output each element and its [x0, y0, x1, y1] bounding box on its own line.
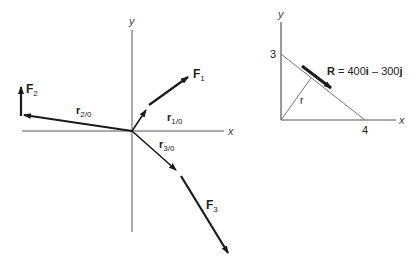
r3-label: r3/0	[159, 138, 175, 153]
right-x-axis-label: x	[398, 114, 405, 126]
left-diagram: x y F1 F2 F3 r1/0 r2/0 r3/0	[21, 15, 234, 253]
f2-label: F2	[26, 82, 38, 98]
line-of-action	[281, 54, 365, 120]
f1-label: F1	[193, 67, 205, 83]
r1-vector	[132, 110, 146, 131]
f1-vector	[149, 77, 188, 105]
x-axis-label: x	[227, 125, 234, 137]
y-axis-label: y	[128, 15, 136, 27]
r1-label: r1/0	[167, 111, 183, 126]
y-intercept-label: 3	[270, 48, 276, 60]
r2-label: r2/0	[76, 104, 92, 119]
r-position-vector	[281, 78, 311, 120]
x-intercept-label: 4	[362, 124, 368, 136]
right-diagram: x y 3 4 r R = 400i – 300j	[270, 8, 405, 136]
r2-vector	[24, 115, 132, 131]
f3-vector	[181, 176, 228, 253]
resultant-equation: R = 400i – 300j	[327, 65, 403, 77]
f3-label: F3	[206, 198, 218, 214]
r-label: r	[300, 95, 304, 106]
figure-canvas: x y F1 F2 F3 r1/0 r2/0 r3/0 x y 3 4 r R …	[0, 0, 419, 273]
right-y-axis-label: y	[277, 8, 285, 20]
